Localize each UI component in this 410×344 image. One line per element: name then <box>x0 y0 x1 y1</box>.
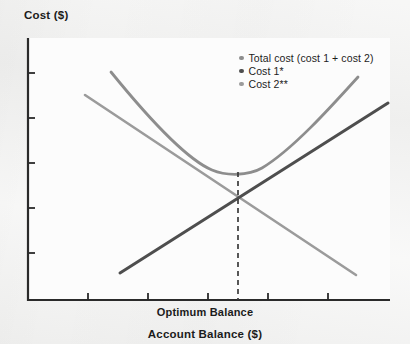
legend-marker-cost1-icon <box>239 69 244 74</box>
legend-label-cost1: Cost 1* <box>249 65 284 77</box>
legend-label-cost2: Cost 2** <box>249 78 288 90</box>
legend-item-total-cost: Total cost (cost 1 + cost 2) <box>239 52 399 64</box>
legend-item-cost1: Cost 1* <box>239 65 399 77</box>
legend-marker-cost2-icon <box>239 82 244 87</box>
legend-item-cost2: Cost 2** <box>239 78 399 90</box>
x-axis-title: Account Balance ($) <box>0 328 410 340</box>
chart-legend: Total cost (cost 1 + cost 2) Cost 1* Cos… <box>239 52 399 91</box>
legend-label-total-cost: Total cost (cost 1 + cost 2) <box>249 52 374 64</box>
optimum-balance-annotation-label: Optimum Balance <box>0 306 410 318</box>
legend-marker-total-cost-icon <box>239 56 244 61</box>
